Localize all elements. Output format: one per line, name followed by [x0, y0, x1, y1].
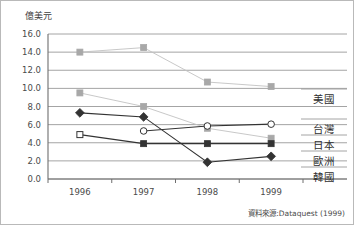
marker-歐洲-1999	[268, 141, 274, 147]
marker-歐洲-1996	[77, 132, 83, 138]
marker-歐洲-1997	[141, 141, 147, 147]
marker-韓國-1998	[203, 158, 212, 167]
y-tick-label: 10.0	[7, 83, 41, 93]
legend-item-台灣: 台灣	[313, 121, 334, 136]
legend-item-日本: 日本	[313, 137, 334, 152]
legend-item-韓國: 韓國	[313, 169, 334, 184]
marker-美國-1996	[77, 49, 83, 55]
marker-台灣-1996	[77, 90, 83, 96]
marker-日本-1997	[140, 128, 147, 135]
y-tick-label: 4.0	[7, 138, 41, 148]
series-lines	[80, 48, 271, 163]
y-tick-label: 6.0	[7, 120, 41, 130]
gridlines	[48, 34, 347, 179]
source-note: 資料來源:Dataquest (1999)	[248, 207, 345, 218]
marker-日本-1998	[204, 123, 211, 130]
chart-figure: 億美元 16.014.012.010.08.06.04.02.00.0 1996…	[0, 0, 354, 225]
y-tick-label: 2.0	[7, 156, 41, 166]
legend-item-美國: 美國	[313, 91, 334, 106]
marker-歐洲-1998	[204, 141, 210, 147]
series-line-台灣	[80, 93, 271, 138]
series-markers	[75, 45, 275, 167]
marker-韓國-1997	[139, 113, 148, 122]
marker-美國-1999	[268, 84, 274, 90]
chart-canvas	[1, 1, 354, 225]
marker-日本-1999	[268, 121, 275, 128]
series-line-美國	[80, 48, 271, 87]
legend-item-歐洲: 歐洲	[313, 153, 334, 168]
x-tick-label-1998: 1998	[187, 187, 227, 197]
marker-美國-1997	[141, 45, 147, 51]
y-tick-label: 8.0	[7, 102, 41, 112]
marker-韓國-1999	[267, 152, 276, 161]
y-tick-label: 12.0	[7, 65, 41, 75]
marker-美國-1998	[204, 79, 210, 85]
marker-韓國-1996	[75, 108, 84, 117]
series-line-韓國	[80, 113, 271, 162]
y-tick-label: 0.0	[7, 174, 41, 184]
y-tick-label: 14.0	[7, 47, 41, 57]
x-tick-label-1999: 1999	[251, 187, 291, 197]
marker-台灣-1997	[141, 104, 147, 110]
x-tick-label-1996: 1996	[60, 187, 100, 197]
y-tick-label: 16.0	[7, 29, 41, 39]
x-tick-label-1997: 1997	[124, 187, 164, 197]
